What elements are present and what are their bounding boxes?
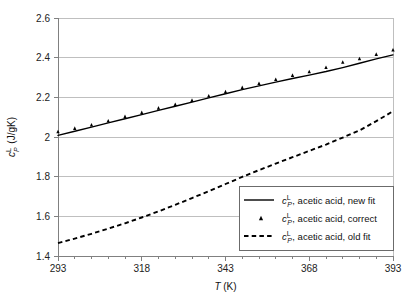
chart-legend: cLP, acetic acid, new fitcLP, acetic aci… (239, 186, 393, 250)
x-tick-label-2: 343 (217, 263, 234, 274)
y-tick-label-1: 1.6 (36, 211, 50, 222)
x-axis-title: T (K) (214, 281, 236, 292)
data-marker-correct-19 (375, 52, 378, 56)
y-tick-label-4: 2.2 (36, 92, 50, 103)
data-marker-correct-12 (257, 81, 260, 85)
series-line-new-fit (58, 55, 393, 136)
data-marker-correct-6 (157, 106, 160, 110)
data-marker-correct-17 (341, 60, 344, 64)
y-axis-ticks (54, 18, 58, 256)
x-tick-label-1: 318 (133, 263, 150, 274)
y-tick-label-3: 2 (44, 132, 50, 143)
data-marker-correct-9 (207, 94, 210, 98)
data-marker-correct-5 (140, 111, 143, 115)
y-axis-title: cLP (J/gK) (5, 117, 20, 157)
data-marker-correct-1 (73, 126, 76, 130)
data-marker-correct-8 (190, 98, 193, 102)
y-tick-label-0: 1.4 (36, 251, 50, 262)
y-tick-label-5: 2.4 (36, 52, 50, 63)
x-tick-label-3: 368 (301, 263, 318, 274)
x-tick-label-0: 293 (50, 263, 67, 274)
data-marker-correct-11 (241, 86, 244, 90)
chart-figure: 293318343368393 1.41.61.822.22.42.6 T (K… (0, 0, 416, 304)
x-axis-ticks (58, 256, 393, 261)
data-marker-correct-7 (174, 102, 177, 106)
chart-canvas: 293318343368393 1.41.61.822.22.42.6 T (K… (0, 0, 416, 304)
data-marker-correct-4 (123, 115, 126, 119)
data-marker-correct-2 (90, 123, 93, 127)
y-axis-tick-labels: 1.41.61.822.22.42.6 (36, 13, 50, 262)
y-tick-label-2: 1.8 (36, 171, 50, 182)
data-marker-correct-15 (308, 70, 311, 74)
data-marker-correct-3 (107, 119, 110, 123)
data-marker-correct-16 (324, 65, 327, 69)
x-tick-label-4: 393 (385, 263, 402, 274)
data-marker-correct-14 (291, 73, 294, 77)
data-marker-correct-0 (56, 130, 59, 134)
data-marker-correct-10 (224, 90, 227, 94)
data-marker-correct-13 (274, 77, 277, 81)
y-tick-label-6: 2.6 (36, 13, 50, 24)
data-marker-correct-20 (391, 48, 394, 52)
axis-titles-group: T (K)cLP (J/gK) (5, 117, 237, 292)
x-axis-tick-labels: 293318343368393 (50, 263, 402, 274)
